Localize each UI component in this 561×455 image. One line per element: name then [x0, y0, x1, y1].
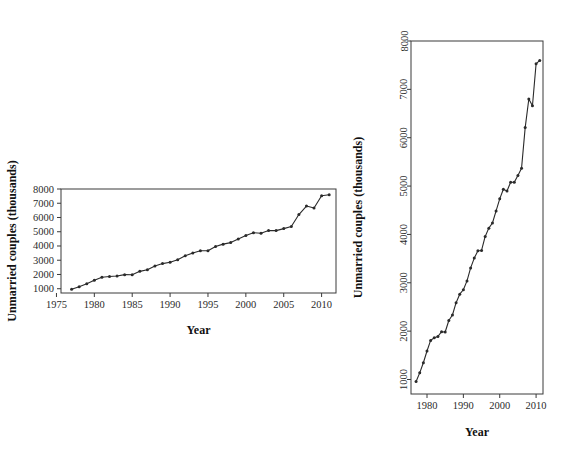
data-point — [229, 241, 232, 244]
chart-panel-right: 1000200030004000500060007000800019801990… — [340, 8, 561, 455]
data-point — [495, 209, 498, 212]
data-point — [535, 62, 538, 65]
x-ticklabel: 2000 — [489, 400, 510, 411]
data-point — [169, 261, 172, 264]
y-axis-title: Unmarried couples (thousands) — [351, 137, 365, 298]
data-point — [116, 275, 119, 278]
y-ticklabel: 2000 — [399, 321, 410, 342]
x-ticklabel: 2010 — [311, 299, 332, 310]
data-point — [476, 249, 479, 252]
data-point — [502, 188, 505, 191]
data-point — [161, 262, 164, 265]
data-point — [237, 238, 240, 241]
data-point — [320, 194, 323, 197]
data-point — [100, 276, 103, 279]
y-ticklabel: 5000 — [33, 226, 54, 237]
data-point — [469, 266, 472, 269]
x-ticklabel: 1990 — [453, 400, 474, 411]
data-point — [429, 339, 432, 342]
data-point — [267, 229, 270, 232]
data-point — [305, 205, 308, 208]
chart-panel-left: 1000200030004000500060007000800019751980… — [0, 148, 350, 363]
data-point — [531, 104, 534, 107]
data-point — [466, 279, 469, 282]
data-point — [70, 288, 73, 291]
data-point — [297, 213, 300, 216]
data-point — [513, 181, 516, 184]
y-ticklabel: 1000 — [33, 283, 54, 294]
data-point — [538, 59, 541, 62]
data-point — [275, 229, 278, 232]
data-point — [462, 288, 465, 291]
data-point — [520, 167, 523, 170]
data-point — [418, 371, 421, 374]
data-point — [447, 319, 450, 322]
y-ticklabel: 4000 — [399, 224, 410, 245]
x-ticklabel: 1985 — [122, 299, 143, 310]
data-point — [444, 330, 447, 333]
data-point — [487, 227, 490, 230]
data-point — [426, 350, 429, 353]
x-ticklabel: 2005 — [273, 299, 294, 310]
y-ticklabel: 1000 — [399, 369, 410, 390]
data-point — [313, 207, 316, 210]
y-ticklabel: 8000 — [33, 184, 54, 195]
data-point — [480, 249, 483, 252]
data-series-line — [416, 60, 540, 381]
data-point — [524, 126, 527, 129]
data-point — [491, 222, 494, 225]
x-ticklabel: 2000 — [235, 299, 256, 310]
data-point — [153, 265, 156, 268]
data-point — [108, 275, 111, 278]
data-point — [191, 251, 194, 254]
data-point — [516, 174, 519, 177]
data-point — [455, 301, 458, 304]
data-point — [244, 234, 247, 237]
data-point — [498, 197, 501, 200]
data-point — [436, 335, 439, 338]
data-point — [222, 243, 225, 246]
data-point — [451, 313, 454, 316]
y-ticklabel: 8000 — [399, 31, 410, 52]
data-point — [260, 232, 263, 235]
y-ticklabel: 2000 — [33, 269, 54, 280]
data-point — [290, 225, 293, 228]
data-point — [199, 249, 202, 252]
data-point — [146, 268, 149, 271]
data-point — [176, 258, 179, 261]
data-point — [484, 235, 487, 238]
data-point — [282, 227, 285, 230]
x-axis-title: Year — [187, 323, 212, 337]
y-ticklabel: 7000 — [399, 79, 410, 100]
y-ticklabel: 6000 — [399, 127, 410, 148]
data-point — [85, 282, 88, 285]
line-chart-right: 1000200030004000500060007000800019801990… — [340, 8, 561, 455]
data-point — [328, 193, 331, 196]
line-chart-left: 1000200030004000500060007000800019751980… — [0, 148, 350, 363]
data-point — [138, 270, 141, 273]
x-ticklabel: 1995 — [197, 299, 218, 310]
figure-root: 1000200030004000500060007000800019751980… — [0, 0, 561, 455]
y-axis-title: Unmarried couples (thousands) — [5, 160, 19, 321]
y-ticklabel: 3000 — [33, 255, 54, 266]
data-point — [214, 245, 217, 248]
data-point — [422, 361, 425, 364]
y-ticklabel: 3000 — [399, 272, 410, 293]
y-ticklabel: 6000 — [33, 212, 54, 223]
data-point — [123, 273, 126, 276]
x-ticklabel: 1975 — [46, 299, 67, 310]
x-ticklabel: 1980 — [84, 299, 105, 310]
data-point — [206, 249, 209, 252]
data-point — [433, 336, 436, 339]
data-point — [415, 380, 418, 383]
x-ticklabel: 2010 — [526, 400, 547, 411]
data-point — [184, 254, 187, 257]
y-ticklabel: 4000 — [33, 240, 54, 251]
data-point — [506, 190, 509, 193]
x-ticklabel: 1990 — [160, 299, 181, 310]
data-point — [473, 257, 476, 260]
data-point — [252, 231, 255, 234]
data-point — [527, 97, 530, 100]
y-ticklabel: 7000 — [33, 198, 54, 209]
x-axis-title: Year — [465, 425, 490, 439]
